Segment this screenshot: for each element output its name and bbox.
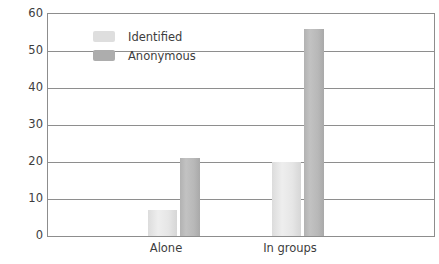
bar-ingroups-anonymous <box>304 29 324 236</box>
legend-swatch-identified-icon <box>93 31 115 42</box>
legend-label-anonymous: Anonymous <box>128 50 196 62</box>
y-axis-tick-60: 60 <box>3 8 43 20</box>
y-axis-tick-50: 50 <box>3 45 43 57</box>
y-axis-tick-30: 30 <box>3 119 43 131</box>
gridline-40 <box>48 88 434 89</box>
gridline-10 <box>48 199 434 200</box>
y-axis-tick-0: 0 <box>3 230 43 242</box>
y-axis: 60 50 40 30 20 10 0 <box>0 0 43 264</box>
bar-alone-anonymous <box>180 158 200 236</box>
bar-ingroups-identified <box>272 162 301 236</box>
legend-label-identified: Identified <box>128 31 182 43</box>
y-axis-tick-10: 10 <box>3 193 43 205</box>
y-axis-tick-20: 20 <box>3 156 43 168</box>
legend: Identified Anonymous <box>93 27 196 65</box>
x-axis-tick-in-groups: In groups <box>253 242 327 254</box>
bar-alone-identified <box>148 210 177 236</box>
legend-item-identified: Identified <box>93 27 196 46</box>
x-axis-tick-alone: Alone <box>130 242 202 254</box>
gridline-20 <box>48 162 434 163</box>
legend-swatch-anonymous-icon <box>93 50 115 61</box>
y-axis-tick-40: 40 <box>3 82 43 94</box>
bar-chart: 60 50 40 30 20 10 0 Alone In groups Iden… <box>0 0 439 264</box>
legend-item-anonymous: Anonymous <box>93 46 196 65</box>
gridline-30 <box>48 125 434 126</box>
